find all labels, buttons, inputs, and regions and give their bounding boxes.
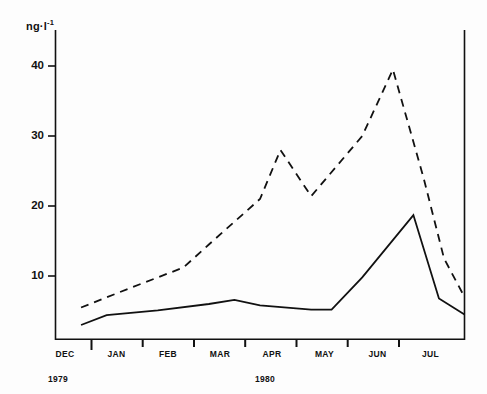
series-line-lower-solid bbox=[81, 215, 464, 325]
series-line-upper-dashed bbox=[81, 70, 464, 308]
plot-area bbox=[0, 0, 487, 394]
chart-figure: ng·l-1 40 30 20 10 DEC JAN FEB MAR APR M… bbox=[0, 0, 487, 394]
